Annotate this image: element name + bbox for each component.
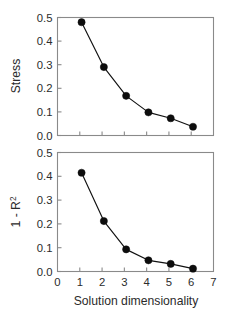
x-ticklabel: 2 — [99, 276, 105, 288]
data-point-marker — [123, 246, 130, 253]
data-point-marker — [123, 92, 130, 99]
bottom-panel: 0.00.10.20.30.40.5 01234567 1 - R2 Solut… — [9, 147, 217, 309]
x-ticklabel: 3 — [121, 276, 127, 288]
x-ticklabel: 4 — [143, 276, 149, 288]
top-panel-y-ticks — [58, 18, 62, 136]
x-ticklabel: 7 — [210, 276, 216, 288]
bottom-panel-x-ticks — [80, 268, 191, 272]
data-point-marker — [189, 265, 196, 272]
bottom-panel-y-axis-title: 1 - R2 — [9, 196, 23, 227]
data-point-marker — [167, 260, 174, 267]
data-point-marker — [100, 63, 107, 70]
top-y-ticklabel: 0.1 — [37, 106, 53, 118]
top-y-ticklabel: 0.0 — [37, 130, 53, 142]
x-ticklabel: 6 — [188, 276, 194, 288]
top-panel-x-ticks — [80, 132, 191, 136]
bottom-y-axis-title-superscript: 2 — [9, 196, 18, 201]
x-ticklabel: 1 — [77, 276, 83, 288]
top-panel-markers — [78, 19, 197, 131]
top-panel-y-axis-title: Stress — [9, 59, 23, 94]
figure-canvas: 0.00.10.20.30.40.5 Stress 0.00.10.20.30.… — [0, 0, 228, 316]
data-point-marker — [145, 109, 152, 116]
top-y-ticklabel: 0.2 — [37, 82, 53, 94]
bottom-panel-series-line — [82, 173, 193, 269]
data-point-marker — [145, 257, 152, 264]
bot-y-ticklabel: 0.1 — [37, 242, 53, 254]
bot-y-ticklabel: 0.4 — [37, 170, 53, 182]
x-ticklabel: 0 — [54, 276, 60, 288]
data-point-marker — [100, 217, 107, 224]
data-point-marker — [78, 169, 85, 176]
data-point-marker — [78, 19, 85, 26]
bottom-y-axis-title-main: 1 - R — [9, 201, 23, 228]
x-axis-title: Solution dimensionality — [74, 294, 200, 308]
top-y-ticklabel: 0.4 — [37, 35, 53, 47]
bot-y-ticklabel: 0.5 — [37, 147, 53, 159]
bottom-panel-markers — [78, 169, 197, 272]
bottom-panel-x-ticklabels: 01234567 — [54, 276, 216, 288]
bot-y-ticklabel: 0.3 — [37, 194, 53, 206]
top-panel: 0.00.10.20.30.40.5 Stress — [9, 12, 214, 142]
bottom-panel-y-ticklabels: 0.00.10.20.30.40.5 — [37, 147, 53, 278]
top-y-ticklabel: 0.3 — [37, 59, 53, 71]
x-ticklabel: 5 — [166, 276, 172, 288]
data-point-marker — [189, 123, 196, 130]
data-point-marker — [167, 115, 174, 122]
top-panel-frame — [58, 18, 214, 136]
bot-y-ticklabel: 0.2 — [37, 218, 53, 230]
scree-plot-figure: 0.00.10.20.30.40.5 Stress 0.00.10.20.30.… — [0, 0, 228, 316]
bot-y-ticklabel: 0.0 — [37, 266, 53, 278]
bottom-panel-y-ticks — [58, 153, 62, 272]
top-panel-y-ticklabels: 0.00.10.20.30.40.5 — [37, 12, 53, 142]
top-panel-series-line — [82, 22, 193, 127]
top-y-ticklabel: 0.5 — [37, 12, 53, 24]
